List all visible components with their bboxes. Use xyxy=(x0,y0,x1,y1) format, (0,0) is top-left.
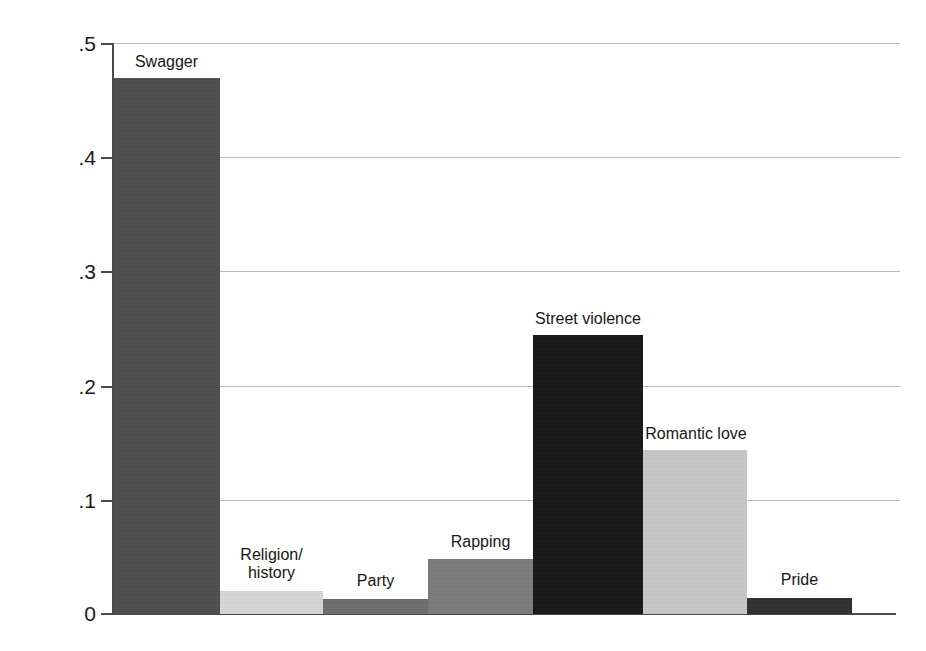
bar-texture-street-violence xyxy=(533,335,643,614)
bar-label-street-violence: Street violence xyxy=(520,310,656,328)
bar-label-rapping: Rapping xyxy=(428,533,533,551)
bar-texture-romantic-love xyxy=(643,450,747,614)
bar-rapping[interactable] xyxy=(428,559,533,614)
bar-label-romantic-love: Romantic love xyxy=(630,425,762,443)
bar-label-religion-history-line1: Religion/ xyxy=(208,546,335,564)
bars-layer: Swagger Religion/ history Party Rapping … xyxy=(0,0,926,651)
bar-label-religion-history-line2: history xyxy=(208,564,335,582)
bar-texture-rapping xyxy=(428,559,533,614)
bar-label-party: Party xyxy=(323,572,428,590)
bar-swagger[interactable] xyxy=(113,78,220,614)
bar-label-swagger: Swagger xyxy=(113,53,220,71)
bar-street-violence[interactable] xyxy=(533,335,643,614)
bar-texture-swagger xyxy=(113,78,220,614)
bar-chart: .5 .4 .3 .2 .1 0 Swagger Religion/ histo… xyxy=(0,0,926,651)
bar-label-pride: Pride xyxy=(747,571,852,589)
bar-texture-party xyxy=(323,599,428,614)
bar-texture-pride xyxy=(747,598,852,614)
bar-romantic-love[interactable] xyxy=(643,450,747,614)
bar-texture-religion-history xyxy=(220,591,323,614)
bar-pride[interactable] xyxy=(747,598,852,614)
bar-party[interactable] xyxy=(323,599,428,614)
bar-religion-history[interactable] xyxy=(220,591,323,614)
